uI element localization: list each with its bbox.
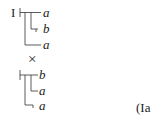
tree2-leaf-1: b: [39, 68, 46, 81]
label-I: I: [11, 6, 15, 19]
tree2-leaf-3: a: [39, 99, 46, 112]
tree1-leaf-1: a: [43, 6, 50, 19]
tree1-leaf-2: b: [43, 22, 50, 35]
equation-number: (Ia: [136, 101, 150, 114]
times-operator: ×: [28, 53, 36, 66]
tree1-leaf-3: a: [43, 38, 50, 51]
tree2-leaf-2: a: [39, 84, 46, 97]
